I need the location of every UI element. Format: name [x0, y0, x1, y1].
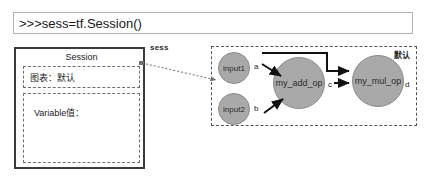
- console-command-bar[interactable]: >>>sess=tf.Session(): [13, 12, 413, 34]
- session-graph-field: 图表：默认: [23, 66, 140, 88]
- session-variable-field-label: Variable值：: [34, 106, 84, 119]
- edge-label-a: a: [254, 62, 258, 71]
- edge-label-b: b: [254, 104, 258, 113]
- session-panel: Session 图表：默认 Variable值：: [14, 47, 145, 169]
- diagram-screenshot: >>>sess=tf.Session() Session 图表：默认 Varia…: [0, 0, 427, 183]
- edge-label-c: c: [328, 80, 332, 89]
- default-graph-panel-tag: 默认: [394, 49, 410, 60]
- session-graph-field-label: 图表：默认: [30, 71, 75, 84]
- sess-connector-label: sess: [150, 43, 169, 52]
- graph-node-my-mul-op[interactable]: my_mul_op: [352, 55, 404, 107]
- graph-node-input2[interactable]: input2: [218, 93, 250, 125]
- edge-label-d: d: [405, 80, 409, 89]
- session-variable-field: Variable值：: [23, 93, 140, 163]
- graph-node-input1[interactable]: input1: [218, 52, 250, 84]
- session-panel-title: Session: [16, 52, 147, 62]
- sess-connector-arrow: [139, 61, 216, 80]
- console-command-text: >>>sess=tf.Session(): [19, 15, 142, 32]
- graph-node-my-add-op[interactable]: my_add_op: [273, 57, 325, 109]
